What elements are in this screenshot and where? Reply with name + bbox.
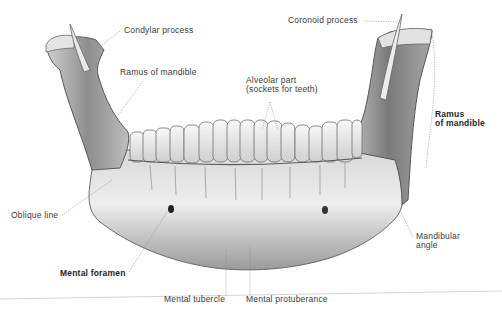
mandible-diagram: Condylar process Coronoid process Ramus … [0, 0, 502, 315]
mental-foramen-right [322, 206, 328, 214]
label-ramus-of-mandible-right: Ramus of mandible [435, 110, 485, 128]
label-mandibular-angle: Mandibular angle [416, 232, 460, 250]
mandible-body [89, 150, 403, 270]
label-alveolar-line2: (sockets for teeth) [246, 85, 318, 94]
left-ramus [47, 37, 129, 170]
mental-foramen-left [168, 205, 174, 213]
label-coronoid-process: Coronoid process [288, 16, 358, 25]
label-mental-foramen: Mental foramen [60, 269, 126, 278]
label-mandibular-angle-line2: angle [416, 241, 460, 250]
label-mental-protuberance: Mental protuberance [246, 295, 328, 304]
teeth-row [130, 120, 362, 163]
label-alveolar-part: Alveolar part (sockets for teeth) [246, 76, 318, 94]
label-oblique-line: Oblique line [11, 211, 58, 220]
label-ramus-right-line2: of mandible [435, 119, 485, 128]
label-condylar-process: Condylar process [124, 26, 193, 35]
label-mental-tubercle: Mental tubercle [164, 295, 225, 304]
label-ramus-of-mandible-left: Ramus of mandible [120, 68, 197, 77]
